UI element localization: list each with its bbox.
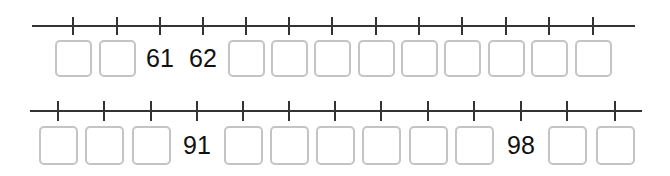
given-number: 61	[142, 40, 179, 77]
answer-box[interactable]	[409, 126, 448, 165]
answer-box[interactable]	[228, 40, 265, 77]
answer-box[interactable]	[55, 40, 92, 77]
tick-mark	[159, 17, 161, 35]
answer-box[interactable]	[132, 126, 171, 165]
tick-mark	[103, 101, 105, 121]
answer-box[interactable]	[316, 126, 355, 165]
tick-mark	[334, 101, 336, 121]
answer-box[interactable]	[548, 126, 587, 165]
tick-mark	[202, 17, 204, 35]
tick-mark	[245, 17, 247, 35]
answer-box[interactable]	[401, 40, 438, 77]
tick-mark	[72, 17, 74, 35]
given-number: 62	[185, 40, 222, 77]
tick-mark	[418, 17, 420, 35]
tick-mark	[548, 17, 550, 35]
answer-box[interactable]	[596, 126, 635, 165]
answer-box[interactable]	[99, 40, 136, 77]
answer-box[interactable]	[531, 40, 568, 77]
tick-mark	[57, 101, 59, 121]
tick-mark	[592, 17, 594, 35]
tick-mark	[242, 101, 244, 121]
answer-box[interactable]	[358, 40, 395, 77]
tick-mark	[196, 101, 198, 121]
tick-mark	[614, 101, 616, 121]
tick-mark	[505, 17, 507, 35]
answer-box[interactable]	[444, 40, 481, 77]
tick-mark	[288, 17, 290, 35]
tick-mark	[461, 17, 463, 35]
tick-mark	[380, 101, 382, 121]
tick-mark	[473, 101, 475, 121]
answer-box[interactable]	[39, 126, 78, 165]
number-line-axis	[32, 25, 635, 27]
answer-box[interactable]	[224, 126, 263, 165]
number-line-axis	[30, 110, 642, 112]
answer-box[interactable]	[85, 126, 124, 165]
answer-box[interactable]	[362, 126, 401, 165]
tick-mark	[288, 101, 290, 121]
tick-mark	[427, 101, 429, 121]
answer-box[interactable]	[314, 40, 351, 77]
tick-mark	[375, 17, 377, 35]
answer-box[interactable]	[575, 40, 612, 77]
given-number: 91	[178, 126, 217, 165]
answer-box[interactable]	[270, 126, 309, 165]
answer-box[interactable]	[488, 40, 525, 77]
tick-mark	[331, 17, 333, 35]
given-number: 98	[502, 126, 541, 165]
answer-box[interactable]	[455, 126, 494, 165]
tick-mark	[150, 101, 152, 121]
answer-box[interactable]	[271, 40, 308, 77]
tick-mark	[116, 17, 118, 35]
tick-mark	[566, 101, 568, 121]
tick-mark	[520, 101, 522, 121]
